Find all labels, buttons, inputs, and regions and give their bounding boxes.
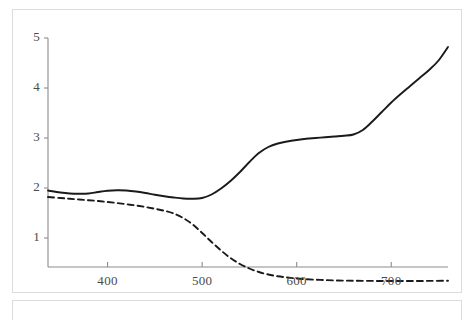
figure-panel bbox=[12, 9, 462, 293]
y-tick-label: 3 bbox=[18, 129, 40, 145]
y-tick-label: 1 bbox=[18, 229, 40, 245]
x-tick-label: 600 bbox=[277, 273, 317, 289]
y-tick-label: 5 bbox=[18, 29, 40, 45]
x-tick-label: 400 bbox=[88, 273, 128, 289]
y-tick-label: 2 bbox=[18, 179, 40, 195]
x-tick-label: 700 bbox=[371, 273, 411, 289]
y-tick-label: 4 bbox=[18, 79, 40, 95]
next-panel bbox=[12, 300, 462, 320]
x-tick-label: 500 bbox=[182, 273, 222, 289]
